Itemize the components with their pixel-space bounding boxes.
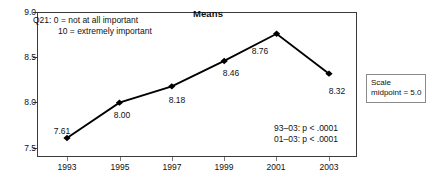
- scale-box-line2: midpoint = 5.0: [371, 88, 421, 98]
- y-tick-label: 8.5: [8, 52, 36, 62]
- x-tick-label: 2001: [256, 162, 296, 172]
- x-tick-mark: [172, 157, 173, 161]
- x-tick-mark: [276, 157, 277, 161]
- point-value-label: 8.18: [169, 95, 186, 105]
- point-value-label: 7.61: [54, 126, 71, 136]
- chart-title: Means: [160, 8, 256, 19]
- y-tick-label: 7.5: [8, 143, 36, 153]
- x-tick-mark: [329, 157, 330, 161]
- x-tick-label: 1999: [204, 162, 244, 172]
- y-tick-label: 9.0: [8, 7, 36, 17]
- y-tick-label: 8.0: [8, 97, 36, 107]
- point-value-label: 8.76: [252, 46, 269, 56]
- scale-box-line1: Scale: [371, 78, 421, 88]
- pvalue-note-line2: 01–03: p < .0001: [274, 134, 338, 145]
- x-tick-mark: [224, 157, 225, 161]
- x-tick-mark: [67, 157, 68, 161]
- q21-note: Q21: 0 = not at all important 10 = extre…: [33, 15, 152, 37]
- point-value-label: 8.00: [114, 110, 131, 120]
- point-value-label: 8.32: [329, 86, 346, 96]
- pvalue-note: 93–03: p < .0001 01–03: p < .0001: [274, 123, 338, 145]
- x-tick-label: 2003: [309, 162, 349, 172]
- y-axis: 9.0 8.5 8.0 7.5: [0, 0, 36, 183]
- q21-note-line1: Q21: 0 = not at all important: [33, 15, 152, 26]
- q21-note-line2: 10 = extremely important: [33, 26, 152, 37]
- scale-midpoint-box: Scale midpoint = 5.0: [366, 74, 426, 103]
- x-tick-label: 1993: [47, 162, 87, 172]
- x-tick-label: 1995: [100, 162, 140, 172]
- pvalue-note-line1: 93–03: p < .0001: [274, 123, 338, 134]
- x-tick-mark: [120, 157, 121, 161]
- point-value-label: 8.46: [223, 68, 240, 78]
- chart-figure: Means 9.0 8.5 8.0 7.5 1993 1995 1997 199…: [0, 0, 432, 183]
- x-tick-label: 1997: [152, 162, 192, 172]
